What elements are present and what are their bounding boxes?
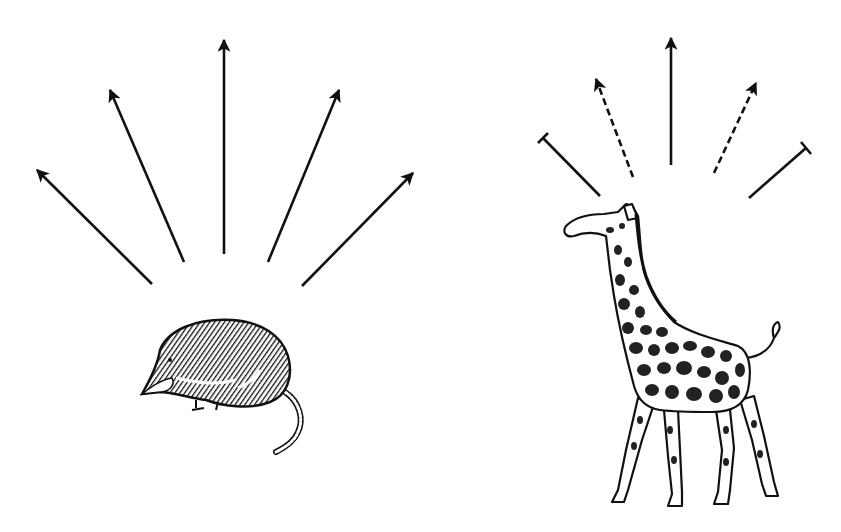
- arrow-blocked: [538, 133, 600, 196]
- arrow-solid: [268, 90, 339, 262]
- arrow-blocked: [749, 142, 811, 198]
- arrow-dashed: [596, 79, 633, 177]
- arrow-solid: [302, 173, 413, 286]
- giraffe-arrows: [538, 38, 811, 198]
- arrow-dashed: [714, 83, 756, 173]
- right-panel: [538, 38, 811, 506]
- shrew-arrows: [37, 40, 413, 286]
- diagram: [0, 0, 841, 532]
- arrow-solid: [37, 170, 152, 284]
- arrow-solid: [110, 90, 184, 262]
- shrew-illustration: [142, 320, 301, 452]
- left-panel: [37, 40, 413, 452]
